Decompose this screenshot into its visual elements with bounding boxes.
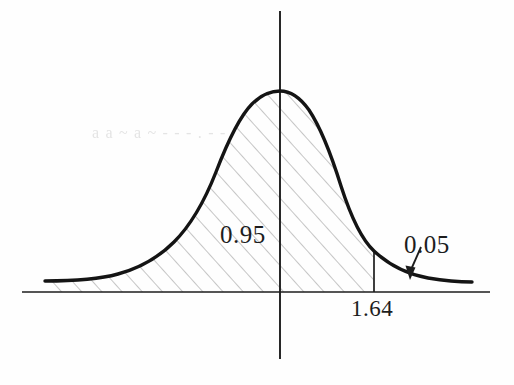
area-label-right: 0.05 — [404, 231, 450, 259]
area-label-left: 0.95 — [220, 221, 266, 249]
axis-tick-label-critical-value: 1.64 — [351, 296, 393, 322]
distribution-chart-svg — [0, 0, 514, 385]
normal-distribution-figure: a a ~ a ~ - - - . - - 0.95 — [0, 0, 514, 385]
